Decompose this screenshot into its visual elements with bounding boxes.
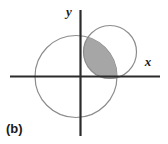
x-axis-label: x — [144, 54, 152, 69]
figure-panel-b: y x (b) — [0, 0, 168, 144]
figure-canvas: y x (b) — [0, 0, 168, 144]
y-axis-label: y — [64, 4, 72, 19]
panel-label: (b) — [6, 121, 23, 136]
